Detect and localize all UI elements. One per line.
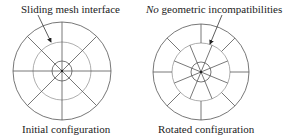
left-annotation-arrow bbox=[38, 15, 51, 42]
rotated-configuration-mesh bbox=[153, 24, 249, 120]
initial-configuration-mesh bbox=[13, 22, 111, 120]
rotated-configuration-caption: Rotated configuration bbox=[158, 124, 254, 135]
right-annotation-arrow bbox=[210, 15, 222, 44]
initial-configuration-caption: Initial configuration bbox=[22, 124, 110, 135]
mesh-diagrams bbox=[0, 0, 286, 139]
